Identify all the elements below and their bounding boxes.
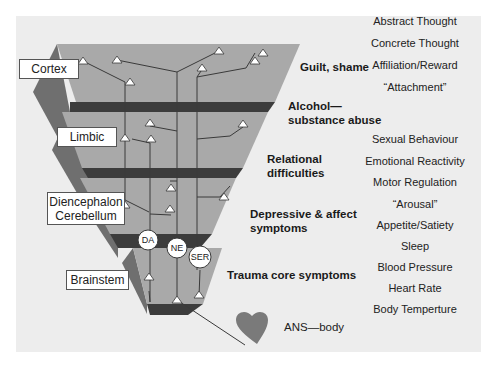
function-abstract-thought: Abstract Thought [350,15,480,27]
symptom-text: symptoms [250,221,357,235]
svg-text:DA: DA [142,235,155,245]
svg-text:SER: SER [191,252,210,262]
symptom-text: Alcohol— [288,99,381,113]
symptom-depressive-affect: Depressive & affect symptoms [250,207,357,235]
ans-body-label: ANS—body [284,321,344,333]
function-motor-regulation: Motor Regulation [350,176,480,188]
function-appetite-satiety: Appetite/Satiety [350,219,480,231]
symptom-trauma-core: Trauma core symptoms [227,268,356,282]
function-heart-rate: Heart Rate [350,282,480,294]
function-affiliation-reward: Affiliation/Reward [350,59,480,71]
function-attachment: “Attachment” [350,81,480,93]
heart-icon [236,312,268,344]
region-label-line: Diencephalon [49,195,122,209]
symptom-text: substance abuse [288,113,381,127]
function-sleep: Sleep [350,240,480,252]
function-emotional-reactivity: Emotional Reactivity [350,155,480,167]
function-arousal: “Arousal” [350,198,480,210]
region-label-brainstem: Brainstem [66,270,129,290]
nt-ne: NE [167,238,187,258]
region-label-limbic: Limbic [57,127,117,147]
region-label-diencephalon-cerebellum: Diencephalon Cerebellum [47,192,125,225]
svg-text:NE: NE [171,243,184,253]
region-label-line: Cerebellum [55,209,116,223]
symptom-text: Depressive & affect [250,207,357,221]
nt-da: DA [138,230,158,250]
symptom-relational-difficulties: Relational difficulties [267,152,325,180]
function-blood-pressure: Blood Pressure [350,261,480,273]
region-label-cortex: Cortex [19,59,79,79]
symptom-text: difficulties [267,166,325,180]
symptom-text: Relational [267,152,325,166]
nt-ser: SER [189,246,211,268]
symptom-alcohol-substance-abuse: Alcohol— substance abuse [288,99,381,127]
function-concrete-thought: Concrete Thought [350,37,480,49]
function-body-temperature: Body Temperture [350,303,480,315]
function-sexual-behaviour: Sexual Behaviour [350,133,480,145]
symptom-text: Trauma core symptoms [227,269,356,281]
